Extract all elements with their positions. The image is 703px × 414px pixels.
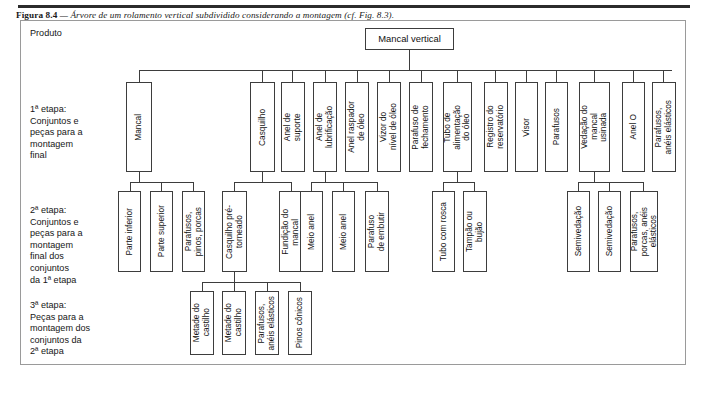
connector-anel-lubrificacao-stem: [325, 172, 326, 182]
connector-drop-tubo-alimentacao: [457, 70, 458, 82]
node-casquilho-pre-torneado[interactable]: Casquilho pré- torneado: [222, 191, 247, 272]
connector-drop-parafuso-embutir: [377, 182, 378, 191]
connector-drop-semivedacao-b: [609, 182, 610, 191]
figure-caption-dash: —: [57, 10, 70, 20]
node-label: Parafuso de fechamento: [411, 105, 430, 150]
figure-caption-label: Figura 8.4: [16, 10, 57, 20]
node-parafusos-aneis-elasticos-l3[interactable]: Parafusos, anéis elásticos: [255, 291, 279, 355]
connector-drop-parafusos-porcas: [643, 182, 644, 191]
node-tubo-com-rosca[interactable]: Tubo com rosca: [432, 191, 455, 272]
connector-mancal-stem: [139, 172, 140, 182]
node-label: Anel de lubrificação: [315, 106, 334, 148]
node-vedacao-do-mancal-usinada[interactable]: Vedação do mancal usinada: [579, 82, 610, 172]
connector-casquilho-stem: [262, 172, 263, 182]
connector-drop-anel-raspador: [357, 70, 358, 82]
node-label: Semivedação: [574, 206, 584, 256]
node-label: Metade do castilho: [224, 303, 243, 342]
connector-drop-metade-a: [202, 282, 203, 291]
node-label: Meio anel: [339, 214, 349, 250]
node-label: Mancal: [134, 114, 144, 141]
connector-drop-semivedacao-a: [578, 182, 579, 191]
connector-casquilho-bus: [234, 182, 291, 183]
connector-drop-anel-o: [633, 70, 634, 82]
node-label: Parafusos, anéis elásticos: [654, 100, 673, 154]
node-meio-anel-1[interactable]: Meio anel: [300, 191, 323, 272]
node-label: Parte inferior: [125, 208, 135, 256]
node-mancal[interactable]: Mancal: [126, 82, 152, 172]
node-parafusos-aneis-elasticos[interactable]: Parafusos, anéis elásticos: [652, 82, 676, 172]
connector-drop-registro: [495, 70, 496, 82]
node-parte-inferior[interactable]: Parte inferior: [118, 191, 141, 272]
connector-drop-metade-b: [234, 282, 235, 291]
node-registro-do-reservatorio[interactable]: Registro do reservatório: [484, 82, 508, 172]
node-label: Fundição do mancal: [281, 209, 300, 255]
node-anel-raspador-de-oleo[interactable]: Anel raspador de óleo: [345, 82, 369, 172]
connector-drop-visor: [526, 70, 527, 82]
connector-tubo-alimentacao-bus: [443, 182, 474, 183]
node-label: Tubo com rosca: [439, 202, 449, 261]
node-metade-do-castilho-1[interactable]: Metade do castilho: [190, 291, 214, 355]
node-parafuso-de-fechamento[interactable]: Parafuso de fechamento: [409, 82, 433, 172]
stage-label-produto: Produto: [30, 28, 62, 40]
figure-caption-body: Árvore de um rolamento vertical subdivid…: [70, 10, 394, 20]
connector-drop-parafusos-pinos: [193, 182, 194, 191]
node-label: Parafusos, pinos, porcas: [184, 207, 203, 256]
node-parte-superior[interactable]: Parte superior: [150, 191, 173, 272]
node-anel-o[interactable]: Anel O: [622, 82, 645, 172]
node-label: Metade do castilho: [192, 303, 211, 342]
node-semivedacao-2[interactable]: Semivedação: [598, 191, 621, 272]
connector-drop-tampao: [474, 182, 475, 191]
node-pinos-conicos[interactable]: Pinos cônicos: [288, 291, 312, 355]
connector-drop-anel-suporte: [292, 70, 293, 82]
connector-drop-meio-anel-a: [311, 182, 312, 191]
connector-drop-mancal: [139, 70, 140, 82]
node-anel-de-suporte[interactable]: Anel de suporte: [281, 82, 305, 172]
connector-vedacao-bus: [578, 182, 643, 183]
node-meio-anel-2[interactable]: Meio anel: [332, 191, 355, 272]
node-label: Tubo de alimentação do óleo: [443, 105, 472, 150]
connector-drop-parafusos-aneis: [663, 70, 664, 82]
node-label: Parafusos: [552, 108, 562, 145]
figure-caption: Figura 8.4 — Árvore de um rolamento vert…: [16, 10, 394, 20]
node-parafusos-porcas-aneis-elasticos[interactable]: Parafusos, porcas, anéis elásticos: [630, 191, 658, 272]
connector-drop-pinos-conicos: [300, 282, 301, 291]
connector-drop-parte-superior: [161, 182, 162, 191]
connector-drop-meio-anel-b: [343, 182, 344, 191]
connector-drop-anel-lubrificacao: [325, 70, 326, 82]
node-tubo-de-alimentacao-do-oleo[interactable]: Tubo de alimentação do óleo: [443, 82, 472, 172]
page-top-rule: [18, 5, 690, 8]
connector-casquilho-pre-stem: [234, 272, 235, 282]
node-vizor-do-nivel-de-oleo[interactable]: Vizor do nível de óleo: [377, 82, 401, 172]
node-root-mancal-vertical[interactable]: Mancal vertical: [365, 28, 454, 50]
stage-label-etapa-3: 3ª etapa: Peças para a montagem dos conj…: [30, 300, 90, 358]
connector-vedacao-stem: [594, 172, 595, 182]
node-label: Vedação do mancal usinada: [580, 105, 609, 149]
node-anel-de-lubrificacao[interactable]: Anel de lubrificação: [313, 82, 337, 172]
connector-drop-casquilho: [262, 70, 263, 82]
node-semivedacao-1[interactable]: Semivedação: [567, 191, 590, 272]
connector-drop-parafusos-aneis-l3: [267, 282, 268, 291]
node-label: Tampão ou bujão: [465, 211, 484, 252]
connector-drop-casquilho-pre: [234, 182, 235, 191]
node-parafusos[interactable]: Parafusos: [545, 82, 568, 172]
connector-level1-bus: [139, 70, 672, 71]
connector-drop-parafusos: [556, 70, 557, 82]
connector-drop-tubo-rosca: [443, 182, 444, 191]
node-parafusos-pinos-porcas[interactable]: Parafusos, pinos, porcas: [182, 191, 205, 272]
connector-level3-bus: [202, 282, 300, 283]
node-label: Casquilho pré- torneado: [225, 205, 244, 259]
node-parafuso-de-embutir[interactable]: Parafuso de embutir: [365, 191, 389, 272]
node-metade-do-castilho-2[interactable]: Metade do castilho: [222, 291, 246, 355]
node-label: Semivedação: [605, 206, 615, 256]
node-label: Anel O: [629, 114, 639, 139]
node-visor[interactable]: Visor: [515, 82, 538, 172]
node-label: Anel raspador de óleo: [347, 101, 366, 153]
node-casquilho[interactable]: Casquilho: [250, 82, 275, 172]
node-tampao-ou-bujao[interactable]: Tampão ou bujão: [463, 191, 487, 272]
node-label: Parte superior: [157, 205, 167, 257]
node-label: Pinos cônicos: [295, 297, 305, 348]
node-label: Casquilho: [258, 109, 268, 146]
connector-drop-parafuso-fechamento: [421, 70, 422, 82]
connector-drop-vedacao: [594, 70, 595, 82]
node-label: Parafusos, porcas, anéis elásticos: [630, 207, 658, 256]
